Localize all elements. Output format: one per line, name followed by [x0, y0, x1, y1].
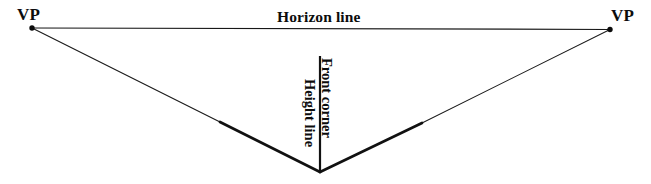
- perspective-diagram: VP VP Horizon line Front corner Height l…: [0, 0, 651, 184]
- vp-label-right: VP: [611, 7, 634, 24]
- vp-label-left: VP: [17, 6, 40, 23]
- height-line-label: Height line: [303, 79, 318, 147]
- front-corner-label: Front corner: [320, 58, 335, 138]
- horizon-line-label: Horizon line: [277, 9, 360, 25]
- vanishing-point-dot-right: [607, 27, 612, 32]
- vanishing-point-dot-left: [29, 25, 34, 30]
